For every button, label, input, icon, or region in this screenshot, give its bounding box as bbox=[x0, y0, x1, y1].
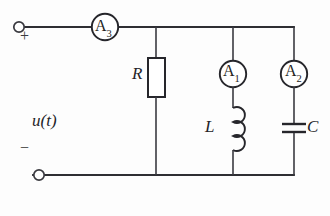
ammeter-a2-letter: A bbox=[285, 62, 297, 79]
ammeter-a1-subscript: 1 bbox=[235, 73, 240, 84]
capacitor-label: C bbox=[307, 118, 318, 135]
resistor-body bbox=[148, 58, 165, 97]
resistor-label: R bbox=[132, 65, 142, 82]
ammeter-a2-label: A2 bbox=[285, 63, 302, 83]
circuit-schematic-svg bbox=[0, 0, 330, 216]
source-label: u(t) bbox=[32, 112, 57, 129]
ammeter-a2-subscript: 2 bbox=[297, 73, 302, 84]
negative-terminal[interactable] bbox=[34, 170, 44, 180]
ammeter-a3-letter: A bbox=[95, 17, 107, 34]
ammeter-a1-label: A1 bbox=[223, 63, 240, 83]
ammeter-a1-letter: A bbox=[223, 62, 235, 79]
inductor-label: L bbox=[205, 118, 214, 135]
ammeter-a3-subscript: 3 bbox=[107, 28, 112, 39]
circuit-diagram: A3 A1 A2 R L C u(t) + − bbox=[0, 0, 330, 216]
inductor-coil bbox=[233, 107, 245, 151]
polarity-minus-sign: − bbox=[20, 140, 29, 156]
ammeter-a3-label: A3 bbox=[95, 18, 112, 38]
polarity-plus-sign: + bbox=[20, 28, 29, 44]
